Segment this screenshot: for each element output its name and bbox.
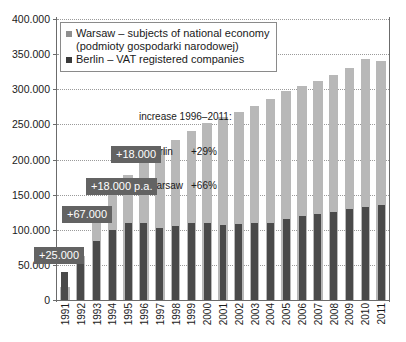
bar-berlin	[251, 223, 258, 300]
y-axis-tick-label: 350.000	[12, 48, 50, 60]
bar-berlin	[330, 212, 337, 301]
increase-title: increase 1996–2011:	[139, 111, 232, 123]
x-axis-tick-label: 1995	[123, 303, 134, 325]
x-axis-tick-label: 1992	[76, 303, 87, 325]
legend-label-warsaw-sub: (podmioty gospodarki narodowej)	[66, 40, 269, 53]
x-axis-tick-label: 2004	[265, 303, 276, 325]
increase-warsaw-value: +66%	[191, 180, 217, 191]
y-axis-tick-label: 100.000	[12, 224, 50, 236]
y-axis-tick	[53, 300, 57, 301]
bar-berlin	[299, 216, 306, 300]
y-axis-tick-label: 250.000	[12, 118, 50, 130]
x-axis-tick-label: 2008	[329, 303, 340, 325]
bar-berlin	[61, 272, 68, 300]
x-axis-tick-label: 1993	[92, 303, 103, 325]
x-axis-tick-label: 1996	[139, 303, 150, 325]
y-axis-tick	[53, 265, 57, 266]
y-axis-tick	[53, 230, 57, 231]
y-axis-tick	[53, 19, 57, 20]
chart-container: Warsaw – subjects of national economy (p…	[0, 0, 406, 342]
y-axis-tick-label: 0	[44, 294, 50, 306]
bar-berlin	[235, 224, 242, 300]
callout-label: +67.000	[62, 206, 112, 223]
x-axis-tick-label: 2007	[313, 303, 324, 325]
plot-right-border	[389, 17, 390, 302]
bar-berlin	[125, 223, 132, 300]
y-axis-tick	[53, 160, 57, 161]
x-axis-tick-label: 1998	[171, 303, 182, 325]
bar-berlin	[172, 226, 179, 300]
x-axis-tick-label: 2003	[250, 303, 261, 325]
y-axis-tick-label: 150.000	[12, 189, 50, 201]
bar-berlin	[362, 207, 369, 300]
increase-berlin-value: +29%	[191, 146, 217, 157]
bar-berlin	[314, 214, 321, 300]
bar-berlin	[188, 223, 195, 300]
x-axis-tick-label: 2001	[218, 303, 229, 325]
bar-berlin	[283, 219, 290, 300]
callout-label: +18.000	[111, 146, 161, 163]
x-axis-tick-label: 1997	[155, 303, 166, 325]
legend-swatch-berlin	[66, 57, 72, 63]
y-axis-tick	[53, 195, 57, 196]
callout-label: +25.000	[34, 247, 84, 264]
y-axis-tick-label: 400.000	[12, 13, 50, 25]
x-axis-tick-label: 2009	[344, 303, 355, 325]
legend-label-berlin: Berlin – VAT registered companies	[76, 53, 244, 66]
x-axis-tick-label: 1991	[60, 303, 71, 325]
x-axis-tick-label: 2005	[281, 303, 292, 325]
bar-berlin	[156, 228, 163, 300]
callout-label: +18.000 p.a.	[86, 178, 157, 195]
chart-legend: Warsaw – subjects of national economy (p…	[60, 22, 277, 72]
bar-berlin	[140, 223, 147, 300]
gridline	[57, 19, 389, 20]
legend-item-berlin: Berlin – VAT registered companies	[66, 53, 269, 66]
bar-berlin	[267, 223, 274, 300]
x-axis-tick-label: 2002	[234, 303, 245, 325]
bar-berlin	[93, 241, 100, 300]
legend-item-warsaw: Warsaw – subjects of national economy	[66, 27, 269, 40]
bar-berlin	[378, 205, 385, 300]
x-axis-tick-label: 2006	[297, 303, 308, 325]
y-axis-tick	[53, 89, 57, 90]
bar-berlin	[109, 230, 116, 300]
x-axis-tick-label: 1999	[186, 303, 197, 325]
y-axis-tick	[53, 124, 57, 125]
bar-berlin	[346, 209, 353, 300]
y-axis-tick-label: 300.000	[12, 83, 50, 95]
legend-swatch-warsaw	[66, 31, 72, 37]
x-axis-tick-label: 2011	[376, 303, 387, 325]
x-axis-tick-label: 1994	[107, 303, 118, 325]
y-axis-tick	[53, 54, 57, 55]
y-axis-tick-label: 200.000	[12, 154, 50, 166]
legend-label-warsaw: Warsaw – subjects of national economy	[76, 27, 269, 40]
bar-berlin	[220, 225, 227, 300]
x-axis-line	[56, 300, 390, 301]
x-axis-tick-label: 2000	[202, 303, 213, 325]
bar-berlin	[204, 223, 211, 300]
x-axis-tick-label: 2010	[360, 303, 371, 325]
